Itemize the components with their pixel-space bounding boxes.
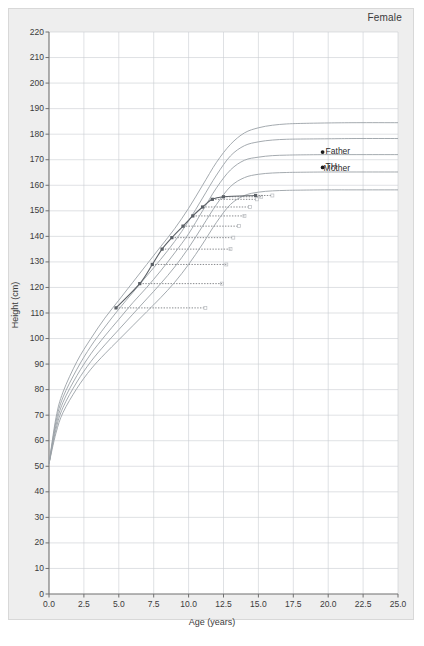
- y-axis-tick-label: 40: [10, 487, 44, 496]
- y-axis-tick-label: 210: [10, 53, 44, 62]
- growth-chart-figure: [0, 0, 424, 646]
- patient-measurement-marker[interactable]: [201, 205, 204, 208]
- patient-measurement-marker[interactable]: [254, 194, 257, 197]
- y-axis-tick-label: 190: [10, 104, 44, 113]
- mother-annotation-label: Mother: [324, 164, 350, 173]
- y-axis-tick-label: 150: [10, 206, 44, 215]
- y-axis-tick-label: 170: [10, 155, 44, 164]
- patient-measurement-marker[interactable]: [181, 225, 184, 228]
- y-axis-tick-label: 70: [10, 411, 44, 420]
- annotation-point-father[interactable]: [321, 150, 325, 154]
- y-axis-tick-label: 120: [10, 283, 44, 292]
- patient-measurement-marker[interactable]: [191, 214, 194, 217]
- y-axis-tick-label: 10: [10, 564, 44, 573]
- patient-measurement-marker[interactable]: [114, 306, 117, 309]
- y-axis-tick-label: 130: [10, 257, 44, 266]
- y-axis-tick-label: 0: [10, 590, 44, 599]
- y-axis-tick-label: 90: [10, 360, 44, 369]
- y-axis-tick-label: 220: [10, 28, 44, 37]
- y-axis-tick-label: 50: [10, 462, 44, 471]
- y-axis-tick-label: 160: [10, 181, 44, 190]
- father-annotation-label: Father: [326, 147, 351, 156]
- patient-measurement-marker[interactable]: [160, 248, 163, 251]
- y-axis-tick-label: 180: [10, 130, 44, 139]
- y-axis-tick-label: 80: [10, 385, 44, 394]
- x-axis-tick-label: 25.0: [378, 600, 418, 609]
- y-axis-tick-label: 20: [10, 538, 44, 547]
- patient-measurement-marker[interactable]: [211, 198, 214, 201]
- growth-chart-page: Female Age (years) Height (cm) 010203040…: [0, 0, 424, 646]
- y-axis-tick-label: 110: [10, 309, 44, 318]
- patient-measurement-marker[interactable]: [151, 263, 154, 266]
- patient-measurement-marker[interactable]: [222, 195, 225, 198]
- patient-measurement-marker[interactable]: [138, 282, 141, 285]
- patient-measurement-marker[interactable]: [170, 236, 173, 239]
- y-axis-tick-label: 140: [10, 232, 44, 241]
- x-axis-title: Age (years): [0, 617, 424, 627]
- sex-label: Female: [367, 12, 402, 23]
- y-axis-tick-label: 100: [10, 334, 44, 343]
- y-axis-tick-label: 30: [10, 513, 44, 522]
- y-axis-tick-label: 60: [10, 436, 44, 445]
- y-axis-tick-label: 200: [10, 79, 44, 88]
